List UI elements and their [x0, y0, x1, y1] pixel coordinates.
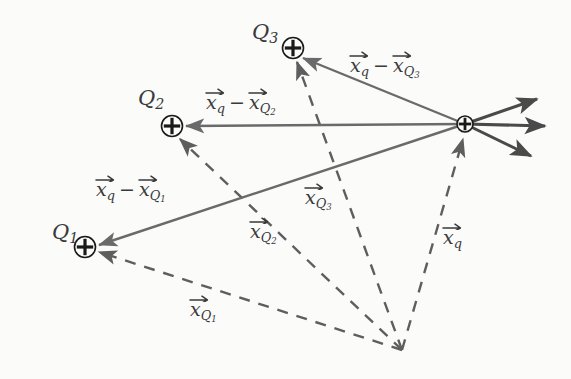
separation-vector-xq-minus-xQ2 — [186, 124, 465, 126]
charge-label-Q2: Q2 — [138, 88, 164, 111]
charge-label-Q1: Q1 — [52, 222, 78, 245]
separation-vector-label-xq-minus-xQ2: xq−xQ2 — [206, 93, 276, 116]
vector-subscript: Q1 — [150, 188, 166, 203]
vector-subscript: Q3 — [404, 64, 420, 79]
vector-diagram-figure: Q1Q2Q3xq−xQ1xq−xQ2xq−xQ3xQ1xQ2xQ3xq — [0, 0, 571, 379]
vector-subscript-index: 3 — [414, 70, 419, 80]
vector-glyph: x — [249, 93, 260, 112]
vector-glyph: x — [206, 93, 217, 112]
separation-vector-label-xq-minus-xQ1: xq−xQ1 — [96, 180, 166, 203]
vector-subscript: Q3 — [316, 196, 332, 211]
charge-subscript: 2 — [155, 96, 164, 112]
position-vector-label-xQ2: xQ2 — [250, 222, 277, 245]
charge-marker-Q3 — [283, 38, 304, 59]
force-arrow-force-upper — [465, 99, 537, 124]
charge-label-Q3: Q3 — [252, 22, 278, 45]
position-vector-label-xq: xq — [443, 228, 462, 251]
vector-subscript: q — [454, 236, 462, 251]
vector-glyph: x — [139, 180, 150, 199]
vector-subscript: q — [361, 64, 369, 79]
force-arrows-group — [465, 99, 545, 156]
vector-glyph: x — [350, 56, 361, 75]
vector-subscript: q — [217, 101, 225, 116]
minus-operator: − — [115, 178, 139, 200]
vector-glyph: x — [443, 228, 454, 247]
vector-subscript: Q1 — [201, 308, 217, 323]
vector-glyph: x — [190, 300, 201, 319]
vector-subscript-index: 2 — [270, 107, 275, 117]
force-arrow-force-middle — [465, 124, 545, 126]
vector-glyph: x — [96, 180, 107, 199]
test-charge-marker-q — [457, 116, 473, 132]
vector-subscript-index: 1 — [160, 194, 165, 204]
charge-subscript: 3 — [269, 30, 278, 46]
charge-marker-Q2 — [162, 116, 183, 137]
separation-vector-label-xq-minus-xQ3: xq−xQ3 — [350, 56, 420, 79]
vector-glyph: x — [305, 188, 316, 207]
position-vector-xQ1 — [99, 252, 402, 350]
charge-subscript: 1 — [69, 230, 78, 246]
force-arrow-force-lower — [465, 124, 531, 156]
vector-subscript-index: 2 — [271, 236, 276, 246]
position-vector-label-xQ3: xQ3 — [305, 188, 332, 211]
vector-glyph: x — [393, 56, 404, 75]
vector-glyph: x — [250, 222, 261, 241]
vector-subscript: Q2 — [261, 230, 277, 245]
minus-operator: − — [369, 54, 393, 76]
vector-subscript: q — [107, 188, 115, 203]
vector-subscript-index: 1 — [211, 314, 216, 324]
minus-operator: − — [225, 91, 249, 113]
vector-subscript-index: 3 — [326, 202, 331, 212]
diagram-canvas — [0, 0, 571, 379]
position-vector-label-xQ1: xQ1 — [190, 300, 217, 323]
vector-subscript: Q2 — [260, 101, 276, 116]
